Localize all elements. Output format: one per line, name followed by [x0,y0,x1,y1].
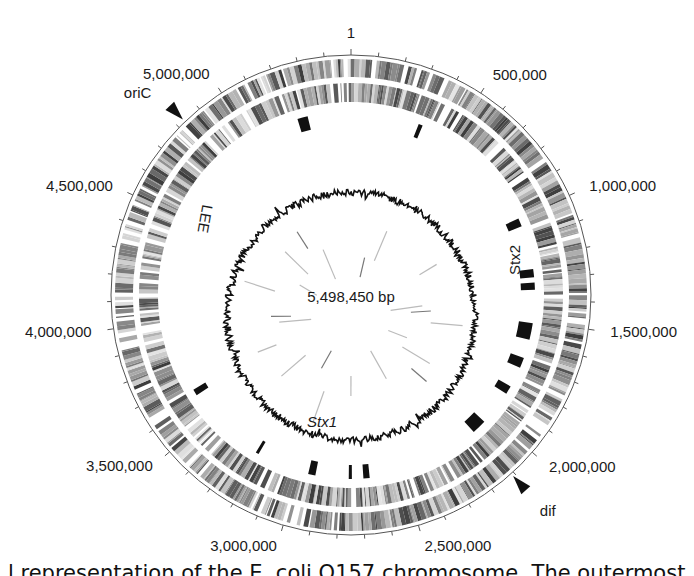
gene-band [115,297,133,300]
genome-size-label: 5,498,450 bp [307,288,395,305]
axis-tick [549,431,552,433]
gc-content-line [224,190,479,447]
axis-tick [392,532,393,536]
genomic-island [494,380,510,394]
axis-tick [135,407,139,409]
gene-band [139,298,158,303]
axis-tick [523,125,526,128]
axis-tick [557,169,560,171]
stx1-label: Stx1 [307,413,337,430]
axis-tick [256,516,258,520]
axis-tick [115,356,119,357]
position-label: 5,000,000 [143,65,210,82]
axis-tick [158,146,161,148]
feature-ray [279,319,311,322]
lee-label: LEE [195,204,217,235]
axis-tick [583,356,587,357]
position-label: 2,000,000 [549,458,616,475]
feature-labels: LEEStx2Stx1 [195,204,523,430]
gene-band [116,315,134,318]
axis-tick [563,407,567,409]
axis-tick [586,247,590,248]
axis-tick [418,525,420,531]
gene-band [340,83,342,102]
genomic-island [362,464,369,478]
gene-band [349,513,353,531]
axis-tick [231,504,233,507]
feature-ray [371,351,387,379]
gene-band [354,59,359,77]
axis-tick [296,57,297,61]
axis-tick [269,65,270,69]
gene-band [569,288,587,291]
genomic-island [414,124,423,138]
axis-tick [197,106,200,109]
axis-tick [469,504,471,507]
feature-ray [420,264,437,274]
genomic-island [464,412,484,432]
gene-band [544,291,563,294]
axis-tick [244,76,246,80]
axis-tick [513,472,516,475]
axis-tick [444,516,446,520]
figure-caption: l representation of the E. coli O157 chr… [0,558,694,576]
feature-ray [391,306,423,311]
gene-band [115,308,133,314]
axis-tick [532,452,537,456]
gene-band [544,288,563,292]
genomic-island [507,353,524,368]
gene-band [351,59,355,77]
gene-band [345,513,349,531]
gene-band [115,283,133,288]
axis-tick [112,246,116,247]
feature-ray [285,252,308,274]
axis-tick [124,382,128,383]
oriC-marker-icon [165,102,182,120]
gene-band [333,83,339,102]
gene-band [349,83,351,102]
axis-tick [281,525,283,531]
feature-ray [321,351,331,368]
axis-tick [218,88,221,93]
genomic-island [193,383,208,396]
feature-ray [402,347,429,364]
dif-marker-icon [513,476,530,494]
genomic-island [349,465,352,479]
feature-ray [411,368,426,381]
circular-genome-map: 1500,0001,000,0001,500,0002,000,0002,500… [0,0,694,576]
axis-tick [457,76,459,80]
feature-ray [281,355,305,376]
position-label: 1,000,000 [589,177,656,194]
genomic-island [308,460,318,475]
gene-band [348,59,351,77]
feature-ray [388,331,407,338]
axis-tick [186,472,189,475]
genomic-island [297,116,310,132]
genomic-island [256,440,266,454]
feature-ray [411,311,431,312]
axis-tick [309,531,310,535]
axis-tick [481,88,484,93]
gene-band [287,505,295,523]
axis-tick [432,65,433,69]
gene-band [115,290,133,293]
gene-band [351,83,354,102]
position-label: 4,500,000 [46,177,113,194]
genomic-island [521,282,535,290]
genomic-island [506,219,522,232]
gene-band [569,295,587,300]
axis-tick [492,489,494,492]
dif-label: dif [540,502,557,519]
position-label: 3,500,000 [86,457,153,474]
axis-tick [119,219,123,220]
position-label: 1 [347,24,355,41]
axis-tick [165,452,170,456]
axis-tick [575,382,579,383]
gene-band [334,512,338,530]
genomic-island [516,321,533,340]
gene-band [354,83,358,102]
gene-band [543,269,562,274]
position-label: 500,000 [493,66,547,83]
gene-band [297,507,304,525]
position-label: 1,500,000 [610,323,677,340]
